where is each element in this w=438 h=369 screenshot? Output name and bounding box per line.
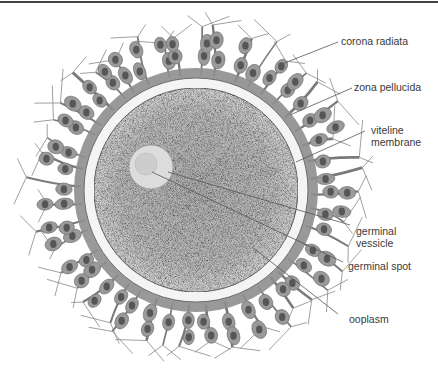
leader-line-corona-radiata bbox=[282, 42, 338, 64]
label-germinal-vessicle: germinal vessicle bbox=[356, 225, 396, 249]
label-ooplasm: ooplasm bbox=[349, 313, 389, 325]
label-germinal-vessicle-line1: germinal bbox=[356, 225, 396, 237]
label-viteline-line1: viteline bbox=[371, 124, 421, 136]
label-zona-pellucida: zona pellucida bbox=[354, 81, 421, 93]
ooplasm bbox=[94, 88, 298, 292]
label-corona-radiata: corona radiata bbox=[341, 35, 408, 47]
label-viteline-line2: membrane bbox=[371, 136, 421, 148]
label-viteline-membrane: viteline membrane bbox=[371, 124, 421, 148]
label-germinal-vessicle-line2: vessicle bbox=[356, 237, 396, 249]
label-germinal-spot: germinal spot bbox=[348, 260, 411, 272]
germinal-spot bbox=[135, 153, 157, 175]
